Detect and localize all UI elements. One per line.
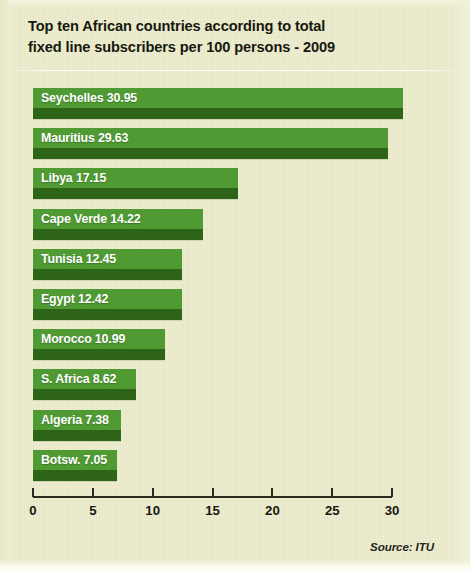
bar-label: Morocco 10.99 (41, 329, 125, 349)
bar-shadow-band (33, 229, 203, 240)
bar-shadow-band (33, 470, 117, 481)
bar-shadow-band (33, 389, 136, 400)
x-axis-tick-label: 10 (133, 503, 173, 518)
bar-label: Egypt 12.42 (41, 289, 108, 309)
bar-label: Botsw. 7.05 (41, 450, 107, 470)
bar-label: Mauritius 29.63 (41, 128, 128, 148)
x-axis-tick-label: 5 (73, 503, 113, 518)
bar-row: Tunisia 12.45 (33, 249, 182, 280)
bar-shadow-band (33, 108, 403, 119)
x-axis-tick (152, 488, 154, 497)
x-axis-tick (92, 488, 94, 497)
bar-row: Botsw. 7.05 (33, 450, 117, 481)
chart-page: Top ten African countries according to t… (0, 0, 470, 574)
x-axis-tick-label: 20 (252, 503, 292, 518)
bar-shadow-band (33, 269, 182, 280)
x-axis-tick-label: 30 (372, 503, 412, 518)
x-axis-tick (212, 488, 214, 497)
x-axis-tick (32, 488, 34, 497)
bar-row: Mauritius 29.63 (33, 128, 388, 159)
x-axis-tick (331, 488, 333, 497)
bar-row: Egypt 12.42 (33, 289, 182, 320)
x-axis-tick-label: 25 (312, 503, 352, 518)
bar-label: Algeria 7.38 (41, 410, 109, 430)
bar-shadow-band (33, 349, 165, 360)
bar-label: Cape Verde 14.22 (41, 209, 141, 229)
bar-row: S. Africa 8.62 (33, 369, 136, 400)
bar-label: S. Africa 8.62 (41, 369, 116, 389)
bar-row: Seychelles 30.95 (33, 88, 403, 119)
bar-row: Libya 17.15 (33, 168, 238, 199)
bar-shadow-band (33, 148, 388, 159)
source-note: Source: ITU (370, 540, 434, 553)
bar-row: Cape Verde 14.22 (33, 209, 203, 240)
x-axis-tick-label: 15 (193, 503, 233, 518)
bar-shadow-band (33, 188, 238, 199)
bar-shadow-band (33, 430, 121, 441)
page-bottom-edge (0, 560, 470, 574)
bar-label: Tunisia 12.45 (41, 249, 116, 269)
bar-row: Algeria 7.38 (33, 410, 121, 441)
x-axis-tick (271, 488, 273, 497)
bar-row: Morocco 10.99 (33, 329, 165, 360)
bar-label: Libya 17.15 (41, 168, 106, 188)
bar-shadow-band (33, 309, 182, 320)
x-axis-tick-label: 0 (13, 503, 53, 518)
x-axis-tick (391, 488, 393, 497)
bar-label: Seychelles 30.95 (41, 88, 137, 108)
bar-chart-plot: Seychelles 30.95Mauritius 29.63Libya 17.… (0, 0, 470, 574)
